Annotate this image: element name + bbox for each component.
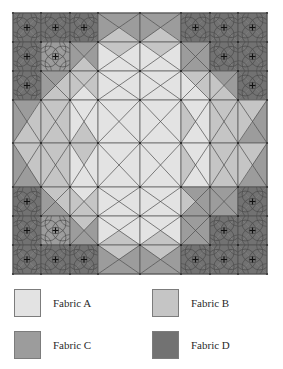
quilt-block xyxy=(140,100,181,143)
grid-junction xyxy=(97,244,99,246)
fabric-b-swatch xyxy=(152,289,179,317)
grid-junction xyxy=(209,41,211,43)
quilt-block xyxy=(98,71,140,100)
quilt-block xyxy=(98,143,140,187)
grid-junction xyxy=(69,142,71,144)
quilt-block xyxy=(140,71,181,100)
grid-junction xyxy=(237,70,239,72)
quilt-block xyxy=(181,42,210,71)
fabric-a-label: Fabric A xyxy=(53,297,91,309)
quilt-block xyxy=(181,187,210,216)
grid-junction xyxy=(139,244,141,246)
quilt-block xyxy=(70,143,98,187)
quilt-block xyxy=(181,143,210,187)
grid-junction xyxy=(209,244,211,246)
legend-item-fabric-a: Fabric A xyxy=(14,289,91,317)
quilt-block xyxy=(41,143,70,187)
grid-junction xyxy=(40,70,42,72)
grid-junction xyxy=(69,70,71,72)
quilt-block xyxy=(13,100,41,143)
fabric-d-swatch xyxy=(152,331,179,359)
grid-junction xyxy=(139,142,141,144)
grid-junction xyxy=(69,244,71,246)
quilt-block xyxy=(98,42,140,71)
grid-junction xyxy=(97,142,99,144)
quilt-block xyxy=(181,71,210,100)
quilt-block xyxy=(41,187,70,216)
quilt-block xyxy=(70,100,98,143)
quilt-block xyxy=(210,71,238,100)
fabric-d-label: Fabric D xyxy=(191,339,230,351)
grid-junction xyxy=(209,70,211,72)
grid-junction xyxy=(139,215,141,217)
grid-junction xyxy=(69,215,71,217)
quilt-block xyxy=(210,187,238,216)
quilt-block xyxy=(70,216,98,245)
quilt-block xyxy=(238,143,267,187)
grid-junction xyxy=(139,186,141,188)
fabric-a-swatch xyxy=(14,289,41,317)
quilt-grid xyxy=(3,3,278,285)
grid-junction xyxy=(237,186,239,188)
grid-junction xyxy=(180,99,182,101)
grid-junction xyxy=(180,244,182,246)
quilt-block xyxy=(98,13,140,42)
quilt-block xyxy=(181,100,210,143)
quilt-block xyxy=(70,71,98,100)
quilt-block xyxy=(70,42,98,71)
quilt-block xyxy=(210,100,238,143)
grid-junction xyxy=(180,70,182,72)
quilt-block xyxy=(98,245,140,274)
grid-junction xyxy=(97,215,99,217)
quilt-block xyxy=(140,13,181,42)
legend-item-fabric-d: Fabric D xyxy=(152,331,230,359)
grid-junction xyxy=(180,41,182,43)
grid-junction xyxy=(69,41,71,43)
grid-junction xyxy=(139,70,141,72)
quilt-block xyxy=(98,100,140,143)
grid-junction xyxy=(139,99,141,101)
grid-junction xyxy=(237,41,239,43)
grid-junction xyxy=(209,99,211,101)
fabric-b-label: Fabric B xyxy=(191,297,229,309)
quilt-block xyxy=(140,143,181,187)
grid-junction xyxy=(97,99,99,101)
grid-junction xyxy=(40,215,42,217)
grid-junction xyxy=(69,186,71,188)
grid-junction xyxy=(139,41,141,43)
quilt-block xyxy=(41,100,70,143)
grid-junction xyxy=(209,142,211,144)
grid-junction xyxy=(180,142,182,144)
quilt-block xyxy=(98,187,140,216)
quilt-block xyxy=(210,143,238,187)
quilt-block xyxy=(140,245,181,274)
quilt-diagram xyxy=(0,0,283,285)
grid-junction xyxy=(237,244,239,246)
fabric-c-swatch xyxy=(14,331,41,359)
quilt-block xyxy=(98,216,140,245)
grid-junction xyxy=(97,41,99,43)
grid-junction xyxy=(40,142,42,144)
quilt-block xyxy=(181,216,210,245)
grid-junction xyxy=(209,215,211,217)
grid-junction xyxy=(97,70,99,72)
quilt-block xyxy=(238,100,267,143)
grid-junction xyxy=(97,186,99,188)
grid-junction xyxy=(209,186,211,188)
grid-junction xyxy=(237,99,239,101)
grid-junction xyxy=(237,215,239,217)
quilt-block xyxy=(13,143,41,187)
quilt-block xyxy=(140,42,181,71)
quilt-block xyxy=(70,187,98,216)
grid-junction xyxy=(69,99,71,101)
grid-junction xyxy=(180,215,182,217)
legend-item-fabric-c: Fabric C xyxy=(14,331,91,359)
grid-junction xyxy=(40,244,42,246)
quilt-block xyxy=(140,187,181,216)
legend-item-fabric-b: Fabric B xyxy=(152,289,229,317)
fabric-c-label: Fabric C xyxy=(53,339,91,351)
quilt-block xyxy=(140,216,181,245)
quilt-block xyxy=(41,71,70,100)
grid-junction xyxy=(40,41,42,43)
grid-junction xyxy=(40,186,42,188)
